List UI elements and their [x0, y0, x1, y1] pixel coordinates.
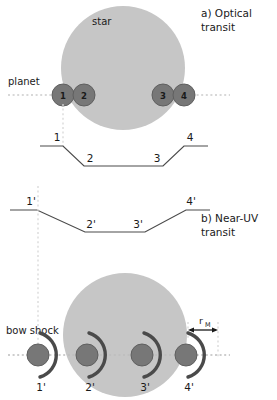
planet-marker-2-label: 2: [81, 91, 87, 101]
planet-marker-2-prime-label: 2': [85, 381, 95, 393]
rm-measurement: r M: [188, 315, 218, 333]
planet-marker-4-prime-label: 4': [184, 381, 194, 393]
transit-diagram-figure: a) Optical transit star planet 1 2 3 4 1…: [0, 0, 277, 400]
planet-marker-3-prime: [131, 344, 153, 366]
near-uv-curve-label-3: 3': [133, 218, 143, 230]
planet-marker-1-prime-label: 1': [36, 381, 46, 393]
planet-marker-1-label: 1: [60, 91, 66, 101]
planet-marker-1-prime: [27, 344, 49, 366]
star-label: star: [92, 16, 112, 27]
rm-label: r: [199, 315, 203, 326]
diagram-canvas: a) Optical transit star planet 1 2 3 4 1…: [0, 0, 277, 400]
optical-curve-label-1: 1: [54, 131, 61, 143]
bow-shock-label: bow shock: [6, 325, 59, 336]
near-uv-curve-label-2: 2': [86, 218, 96, 230]
planet-label: planet: [8, 76, 40, 87]
rm-subscript-label: M: [205, 321, 211, 329]
star-disc-optical: [61, 6, 185, 130]
star-disc-nearuv: [63, 273, 187, 397]
near-uv-light-curve: [10, 210, 210, 232]
near-uv-curve-label-1: 1': [26, 195, 36, 207]
optical-light-curve: [40, 146, 208, 166]
panel-b-caption-line1: b) Near-UV: [201, 212, 259, 224]
bowshock-planet-group-1: 1': [27, 333, 56, 393]
planet-marker-3-prime-label: 3': [140, 381, 150, 393]
optical-curve-label-2: 2: [87, 152, 94, 164]
near-uv-curve-label-4: 4': [186, 195, 196, 207]
planet-marker-4-prime: [175, 344, 197, 366]
optical-curve-label-3: 3: [154, 152, 161, 164]
panel-b-caption-line2: transit: [201, 226, 235, 238]
planet-marker-3-label: 3: [160, 91, 166, 101]
panel-a-caption-line1: a) Optical: [201, 7, 252, 19]
optical-curve-label-4: 4: [187, 131, 194, 143]
planet-marker-4-label: 4: [181, 91, 187, 101]
rm-arrowhead-right: [212, 327, 218, 332]
planet-marker-2-prime: [76, 344, 98, 366]
panel-a-caption-line2: transit: [201, 21, 235, 33]
